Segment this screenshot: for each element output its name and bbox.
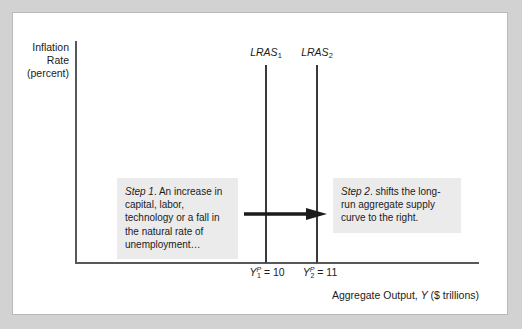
x-axis-title: Aggregate Output, Y ($ trillions) [263,289,479,301]
lras2-label-base: LRAS [301,46,328,58]
output1-value: 10 [273,266,285,278]
lras1-label: LRAS1 [250,46,282,58]
figure-root: Inflation Rate (percent) Aggregate Outpu… [0,0,522,329]
output1-variable: Y [249,266,256,278]
output2-value: 11 [326,266,337,278]
step2-callout: Step 2. shifts the long-run aggregate su… [333,178,461,233]
x-axis-title-prefix: Aggregate Output, [332,289,421,301]
step1-tag: Step 1 [125,186,154,197]
y-axis-title: Inflation Rate (percent) [13,41,69,80]
lras2-label-subscript: 2 [329,51,333,60]
lras1-label-base: LRAS [250,46,277,58]
y-axis-title-line-3: (percent) [13,67,69,80]
lras2-label: LRAS2 [301,46,333,58]
lras2-curve [316,65,318,263]
output2-tick-label: YP2 = 11 [303,266,337,278]
y-axis-title-line-2: Rate [13,54,69,67]
output2-subscript: 2 [310,272,314,279]
lras1-label-subscript: 1 [278,51,282,60]
output2-variable: Y [303,266,310,278]
output1-subscript: 1 [257,272,261,279]
output1-tick-label: YP1 = 10 [249,266,284,278]
x-axis-title-suffix: ($ trillions) [428,289,479,301]
output1-equals: = [261,266,273,278]
step1-callout: Step 1. An increase in capital, labor, t… [117,178,238,259]
x-axis-title-variable: Y [421,289,428,301]
x-axis-line [75,262,479,264]
rightward-shift-arrow [244,206,328,222]
step2-tag: Step 2 [341,186,370,197]
y-axis-title-line-1: Inflation [13,41,69,54]
y-axis-line [75,41,77,264]
diagram-panel: Inflation Rate (percent) Aggregate Outpu… [12,12,508,315]
output2-equals: = [314,266,326,278]
lras1-curve [265,65,267,263]
